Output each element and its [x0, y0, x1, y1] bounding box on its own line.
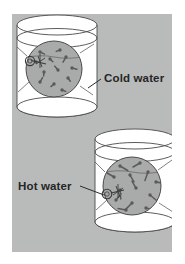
- molecule: [124, 208, 127, 211]
- molecule: [48, 57, 51, 60]
- molecule: [112, 175, 115, 178]
- molecule: [148, 193, 151, 196]
- molecule: [38, 80, 41, 83]
- beaker-cold-rim: [17, 15, 97, 35]
- beaker-cold-water: [17, 15, 97, 117]
- molecule: [70, 66, 73, 69]
- molecule: [56, 68, 59, 71]
- water-molecules-figure: Cold water Hot water: [0, 0, 185, 264]
- molecule: [134, 186, 137, 189]
- molecule: [60, 88, 63, 91]
- molecule: [66, 76, 69, 79]
- cold-water-label-text: Cold water: [104, 72, 165, 84]
- molecule: [38, 50, 41, 53]
- molecule: [138, 161, 141, 164]
- beaker-cold-base: [17, 97, 97, 117]
- molecule: [42, 70, 45, 73]
- molecule: [64, 55, 67, 58]
- molecule: [130, 201, 133, 204]
- molecule: [118, 164, 121, 167]
- diagram-canvas: Cold water Hot water: [0, 0, 185, 264]
- molecule: [52, 82, 55, 85]
- hot-magnifier-lens: [103, 157, 161, 215]
- beaker-hot-water: [95, 129, 175, 232]
- molecule: [144, 206, 147, 209]
- molecule: [154, 180, 157, 183]
- beaker-hot-rim: [95, 129, 175, 149]
- molecule: [58, 48, 61, 51]
- molecule: [146, 170, 149, 173]
- molecule: [128, 173, 131, 176]
- hot-water-label-text: Hot water: [18, 180, 72, 192]
- molecule: [114, 198, 117, 201]
